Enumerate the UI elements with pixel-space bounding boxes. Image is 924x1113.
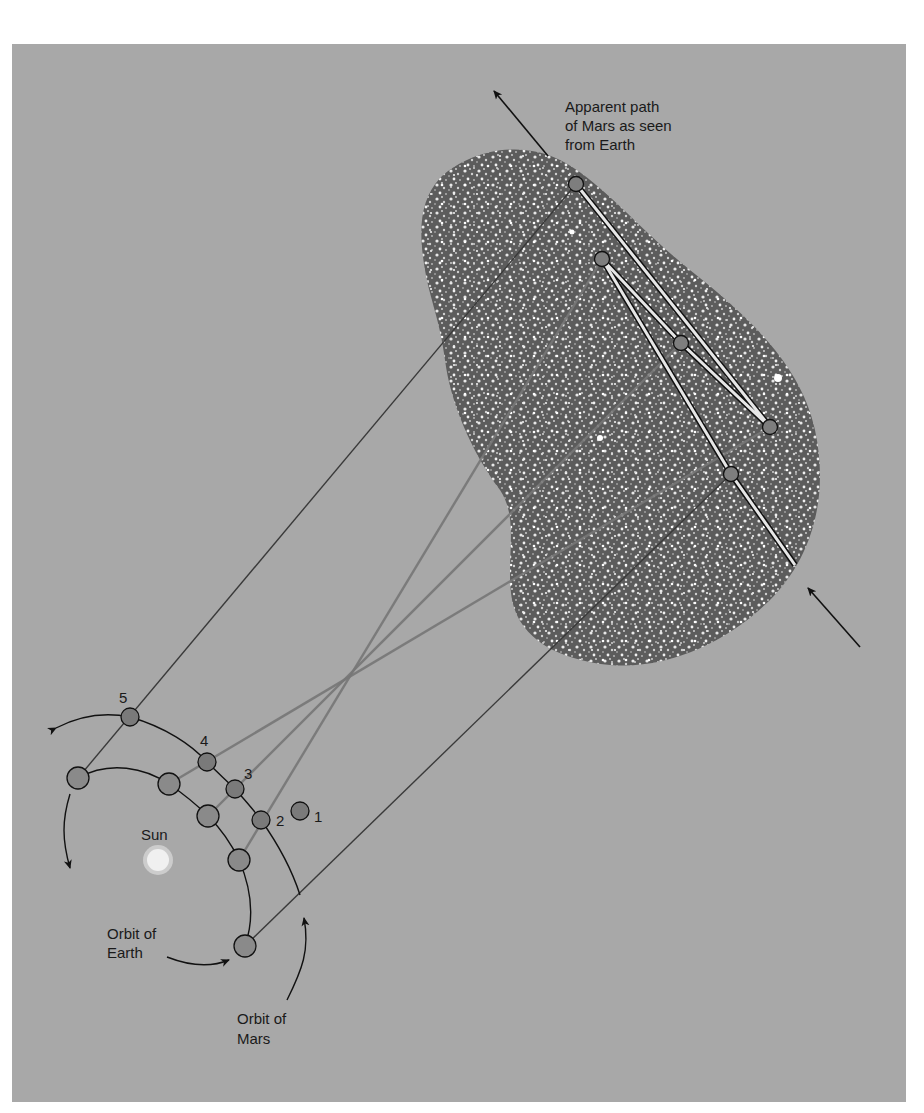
apparent-position-3: [674, 336, 689, 351]
label-orbit-earth: Orbit of Earth: [107, 925, 157, 961]
mars-position-2: [252, 811, 270, 829]
position-number-5: 5: [119, 689, 127, 706]
sun-icon: [143, 845, 173, 875]
svg-text:from Earth: from Earth: [565, 136, 635, 153]
position-number-4: 4: [200, 732, 208, 749]
earth-position-1: [234, 935, 256, 957]
label-orbit-mars: Orbit of Mars: [237, 1010, 287, 1047]
retrograde-motion-diagram: 1 2 3 4 5 Apparent path of Mars as seen …: [0, 0, 924, 1113]
position-number-3: 3: [244, 765, 252, 782]
svg-text:Orbit of: Orbit of: [107, 925, 157, 942]
arrow-up-left-icon: [494, 91, 548, 156]
mars-position-1: [291, 802, 309, 820]
mars-position-3: [226, 780, 244, 798]
apparent-position-5: [569, 177, 584, 192]
sight-line-1: [245, 474, 731, 946]
svg-text:Orbit of: Orbit of: [237, 1010, 287, 1027]
earth-position-4: [158, 773, 180, 795]
orbit-of-mars: [55, 715, 300, 895]
label-sun: Sun: [141, 826, 168, 843]
mars-position-5: [121, 708, 139, 726]
label-apparent-path: Apparent path of Mars as seen from Earth: [565, 98, 672, 153]
earth-position-2: [228, 849, 250, 871]
bright-star: [597, 435, 603, 441]
arrow-incoming-icon: [808, 588, 860, 647]
apparent-position-2: [595, 252, 610, 267]
position-number-2: 2: [276, 812, 284, 829]
svg-text:Mars: Mars: [237, 1030, 270, 1047]
earth-position-3: [197, 805, 219, 827]
arrow-to-earth-orbit-icon: [167, 957, 229, 965]
svg-text:of Mars as seen: of Mars as seen: [565, 117, 672, 134]
svg-text:Apparent path: Apparent path: [565, 98, 659, 115]
position-number-1: 1: [314, 808, 322, 825]
mars-position-4: [198, 753, 216, 771]
svg-text:Earth: Earth: [107, 944, 143, 961]
arrow-to-mars-orbit-icon: [287, 918, 306, 1000]
star-field: [421, 150, 820, 666]
bright-star: [774, 374, 782, 382]
bright-star: [570, 230, 575, 235]
earth-position-5: [67, 767, 89, 789]
apparent-position-1: [724, 467, 739, 482]
apparent-position-4: [763, 420, 778, 435]
